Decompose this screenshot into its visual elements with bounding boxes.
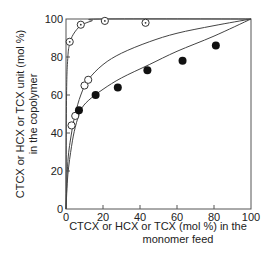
x-tick-label: 0 — [63, 211, 69, 223]
y-tick-label: 100 — [45, 13, 63, 25]
fit-curve — [66, 19, 251, 209]
x-axis-label-line2: monomer feed — [143, 233, 214, 245]
chart: 020406080100 020406080100 CTCX or HCX or… — [0, 0, 272, 259]
filled-data-point — [212, 42, 220, 50]
fit-curves — [66, 19, 251, 209]
y-axis-label-line2: in the copolymer — [27, 73, 39, 154]
data-point-dot — [69, 41, 71, 43]
y-tick-label: 40 — [51, 127, 63, 139]
fit-curve — [66, 19, 251, 209]
filled-data-point — [114, 83, 122, 91]
filled-data-point — [75, 106, 83, 114]
filled-data-point — [92, 91, 100, 99]
y-axis-label-line1: CTCX or HCX or TCX unit (mol %) — [14, 30, 26, 199]
plot-frame — [66, 19, 251, 209]
y-tick-label: 80 — [51, 51, 63, 63]
y-tick-label: 20 — [51, 165, 63, 177]
data-points — [66, 17, 220, 129]
open-data-point — [85, 76, 92, 83]
data-point-dot — [145, 22, 147, 24]
x-axis-label-line1: CTCX or HCX or TCX (mol %) in the — [69, 220, 247, 232]
y-tick-label: 0 — [57, 203, 63, 215]
data-point-dot — [104, 20, 106, 22]
open-data-point — [68, 122, 75, 129]
filled-data-point — [143, 66, 151, 74]
y-tick-label: 60 — [51, 89, 63, 101]
fit-curve — [66, 19, 251, 209]
filled-data-point — [179, 57, 187, 65]
data-point-dot — [80, 24, 82, 26]
